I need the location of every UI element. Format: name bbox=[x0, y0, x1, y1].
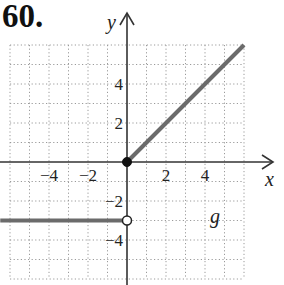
y-axis-label: y bbox=[105, 11, 116, 34]
closed-endpoint-marker bbox=[123, 158, 132, 167]
x-tick-label: −4 bbox=[40, 166, 59, 185]
x-tick-label: −2 bbox=[79, 166, 97, 185]
x-tick-label: 4 bbox=[201, 166, 210, 185]
open-endpoint-marker bbox=[123, 216, 132, 225]
x-axis-label: x bbox=[264, 168, 274, 190]
y-tick-label: 2 bbox=[115, 114, 124, 133]
y-tick-label: 4 bbox=[115, 75, 124, 94]
x-tick-label: 2 bbox=[162, 166, 171, 185]
y-tick-label: −2 bbox=[105, 192, 123, 211]
y-tick-label: −4 bbox=[105, 231, 124, 250]
function-label: g bbox=[210, 205, 220, 228]
axes bbox=[0, 13, 273, 285]
graph: −4−22442−2−4 x y g bbox=[0, 0, 284, 285]
